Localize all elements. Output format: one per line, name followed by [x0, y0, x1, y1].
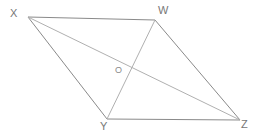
side-xw [28, 17, 155, 20]
geometry-figure: X W Y Z O [0, 0, 258, 136]
side-xy [28, 17, 107, 119]
center-label-o: O [115, 66, 122, 75]
diagonal-xz [28, 17, 240, 120]
vertex-label-z: Z [241, 119, 248, 130]
parallelogram-svg [0, 0, 258, 136]
side-wz [155, 20, 240, 120]
vertex-label-x: X [10, 8, 17, 19]
vertex-label-w: W [158, 5, 168, 16]
side-yz [107, 119, 240, 120]
vertex-label-y: Y [100, 121, 107, 132]
